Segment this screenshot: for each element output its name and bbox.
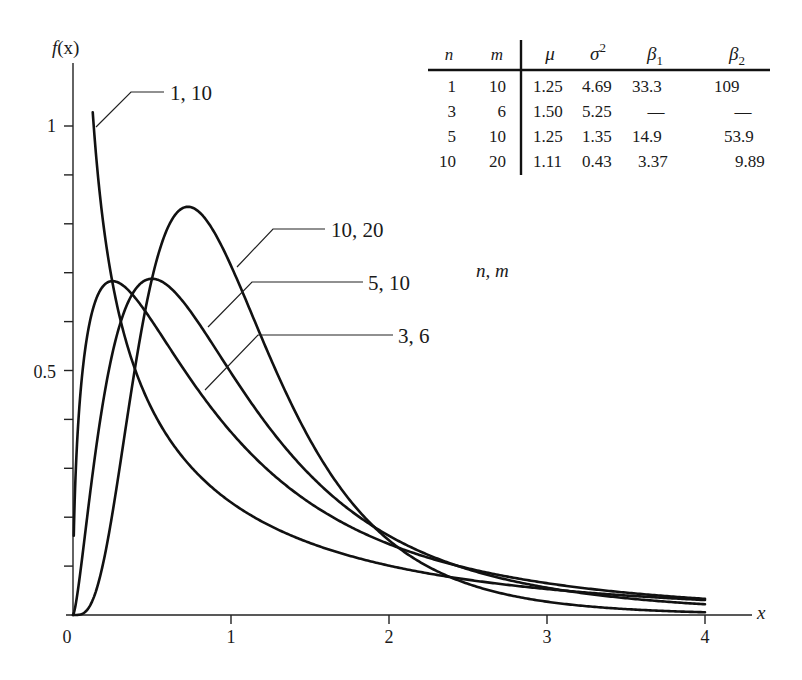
table-header-m: m [491, 45, 503, 64]
svg-text:109: 109 [714, 77, 740, 96]
origin-label: 0 [63, 627, 72, 647]
table-header-mu: μ [544, 43, 555, 64]
leader-line-5-10 [208, 282, 363, 327]
svg-text:0.43: 0.43 [582, 152, 612, 171]
svg-text:—: — [734, 102, 753, 121]
curve-label-10-20: 10, 20 [331, 218, 384, 242]
svg-text:1: 1 [448, 77, 457, 96]
curve-label-1-10: 1, 10 [170, 81, 212, 105]
svg-text:—: — [647, 102, 666, 121]
table-header-variance: σ2 [590, 40, 606, 64]
table-row: 1 10 1.25 4.69 33.3 109 [448, 77, 740, 96]
svg-text:10: 10 [489, 77, 506, 96]
curve-n10-m20 [73, 207, 705, 615]
svg-text:33.3: 33.3 [632, 77, 662, 96]
svg-text:10: 10 [489, 127, 506, 146]
x-axis-ticks [231, 615, 705, 624]
svg-text:3: 3 [448, 102, 457, 121]
leader-line-1-10 [96, 92, 164, 127]
table-row: 10 20 1.11 0.43 3.37 9.89 [439, 152, 765, 171]
y-tick-label-1: 1 [47, 116, 56, 136]
svg-text:4.69: 4.69 [582, 77, 612, 96]
y-axis-label: f(x) [52, 37, 79, 59]
leader-line-10-20 [237, 229, 325, 267]
legend-nm-label: n, m [476, 260, 509, 281]
svg-text:5.25: 5.25 [582, 102, 612, 121]
curve-n1-m10 [93, 112, 705, 600]
x-axis-label: x [756, 602, 766, 623]
svg-text:1.50: 1.50 [533, 102, 563, 121]
svg-text:1.25: 1.25 [533, 127, 563, 146]
svg-text:53.9: 53.9 [724, 127, 754, 146]
table-header-beta2: β2 [728, 43, 745, 68]
y-tick-label-0.5: 0.5 [34, 362, 57, 382]
leader-line-3-6 [205, 335, 393, 390]
f-distribution-chart: f(x) x 0 1 0.5 1 2 3 4 1, 10 10, 20 5, 1… [0, 0, 802, 680]
table-row: 5 10 1.25 1.35 14.9 53.9 [448, 127, 754, 146]
x-tick-label-2: 2 [385, 627, 394, 647]
table-header-n: n [445, 45, 454, 64]
table-row: 3 6 1.50 5.25 — — [448, 102, 753, 121]
curve-label-3-6: 3, 6 [398, 324, 430, 348]
svg-text:20: 20 [489, 152, 506, 171]
moments-table: n m μ σ2 β1 β2 1 10 1.25 4.69 33.3 109 3… [428, 40, 770, 175]
svg-text:1.35: 1.35 [582, 127, 612, 146]
x-tick-label-4: 4 [701, 627, 710, 647]
x-tick-label-3: 3 [543, 627, 552, 647]
svg-text:14.9: 14.9 [632, 127, 662, 146]
svg-text:3.37: 3.37 [638, 152, 668, 171]
svg-text:1.11: 1.11 [533, 152, 562, 171]
x-tick-label-1: 1 [227, 627, 236, 647]
svg-text:1.25: 1.25 [533, 77, 563, 96]
table-header-beta1: β1 [646, 43, 663, 68]
curve-label-5-10: 5, 10 [368, 271, 410, 295]
y-axis-ticks [64, 126, 73, 566]
svg-text:9.89: 9.89 [735, 152, 765, 171]
svg-text:10: 10 [439, 152, 456, 171]
svg-text:5: 5 [448, 127, 457, 146]
curves [73, 112, 705, 615]
svg-text:6: 6 [498, 102, 507, 121]
